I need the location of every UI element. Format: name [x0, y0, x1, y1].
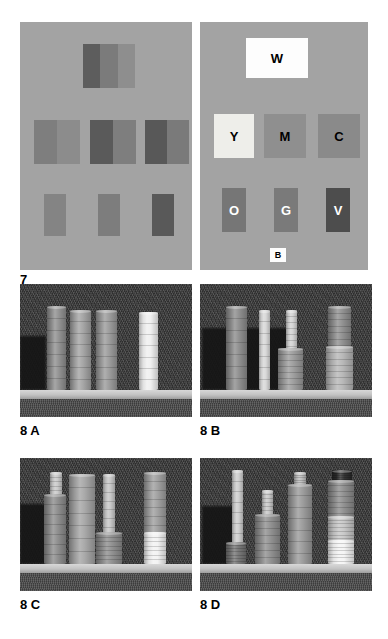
cylinder-ring: [139, 379, 158, 380]
cylinder-ring: [144, 516, 166, 517]
cylinder-ring: [332, 473, 352, 474]
cylinder-ring: [326, 365, 353, 366]
cylinder-ring: [47, 342, 66, 343]
cast-shadow: [20, 336, 46, 390]
cylinder-ring: [70, 379, 91, 380]
cylinder-d1: [232, 470, 243, 544]
cylinder-top: [262, 490, 273, 493]
cylinder-ring: [144, 541, 166, 542]
cylinder-c7: [144, 532, 166, 564]
cylinder-ring: [328, 535, 354, 536]
cylinder-ring: [328, 550, 354, 551]
cylinder-scene-a: 8 A: [20, 284, 192, 441]
cylinder-ring: [70, 344, 91, 345]
cylinder-ring: [328, 496, 354, 497]
cylinder-ring: [328, 527, 354, 528]
cylinder-b3: [286, 310, 297, 352]
cylinder-ring: [47, 354, 66, 355]
cylinder-ring: [328, 523, 354, 524]
cylinder-ring: [226, 555, 246, 556]
patch-half: [90, 120, 113, 164]
cylinder-ring: [96, 367, 117, 368]
cylinder-ring: [69, 500, 95, 501]
figure-plate: WYMCOGVB 7 8 A8 B8 C8 D: [0, 0, 388, 639]
cylinder-ring: [103, 518, 115, 519]
cylinder-ring: [69, 513, 95, 514]
colour-patch-w: W: [246, 38, 308, 78]
figure-7-left-panel: [20, 22, 192, 270]
cylinder-ring: [328, 557, 354, 558]
cylinder-ring: [286, 322, 297, 323]
cylinder-top: [259, 310, 270, 313]
cylinder-ring: [286, 334, 297, 335]
cylinder-top: [326, 346, 353, 349]
cylinder-ring: [139, 334, 158, 335]
textured-floor: [200, 573, 372, 591]
cylinder-ring: [103, 492, 115, 493]
cylinder-top: [50, 472, 62, 475]
figure-7: WYMCOGVB: [20, 22, 368, 270]
achromatic-patch-top-center: [83, 44, 135, 88]
cylinder-ring: [139, 323, 158, 324]
patch-half: [83, 44, 100, 88]
patch-half: [118, 44, 135, 88]
cylinder-ring: [288, 518, 312, 519]
cylinder-c3: [69, 474, 95, 564]
cylinder-scene-b-image: [200, 284, 372, 417]
cylinder-ring: [278, 384, 303, 385]
cylinder-ring: [144, 481, 166, 482]
achromatic-patch-low-left: [44, 194, 66, 236]
cylinder-ring: [96, 333, 117, 334]
cylinder-ring: [69, 487, 95, 488]
cylinder-ring: [294, 477, 306, 478]
cylinder-c2: [44, 494, 66, 564]
cylinder-ring: [288, 507, 312, 508]
shelf-surface: [20, 564, 192, 573]
cylinder-ring: [259, 321, 270, 322]
cylinder-ring: [44, 534, 66, 535]
textured-floor: [200, 399, 372, 417]
cylinder-ring: [96, 550, 122, 551]
colour-patch-v: V: [326, 188, 350, 232]
patch-half: [44, 194, 66, 236]
cylinder-ring: [47, 366, 66, 367]
cylinder-ring: [226, 548, 246, 549]
cylinder-ring: [69, 525, 95, 526]
cylinder-ring: [70, 333, 91, 334]
textured-floor: [20, 399, 192, 417]
cylinder-ring: [226, 366, 247, 367]
cylinder-ring: [255, 521, 280, 522]
cylinder-top: [144, 532, 166, 535]
cylinder-b2: [259, 310, 270, 390]
cylinder-ring: [278, 360, 303, 361]
cylinder-ring: [288, 553, 312, 554]
cylinder-ring: [288, 530, 312, 531]
cylinder-ring: [96, 344, 117, 345]
cylinder-ring: [144, 525, 166, 526]
achromatic-patch-mid-right: [145, 120, 189, 164]
cylinder-ring: [70, 356, 91, 357]
cylinder-ring: [232, 481, 243, 482]
cylinder-top: [332, 470, 352, 473]
cylinder-ring: [255, 557, 280, 558]
cylinder-ring: [286, 316, 297, 317]
cylinder-ring: [278, 372, 303, 373]
cylinder-ring: [328, 339, 351, 340]
cylinder-ring: [259, 379, 270, 380]
cylinder-scene-d: 8 D: [200, 458, 372, 615]
cylinder-scene-a-image: [20, 284, 192, 417]
cylinder-ring: [103, 527, 115, 528]
cylinder-top: [96, 532, 122, 535]
cylinder-ring: [50, 481, 62, 482]
shelf-surface: [200, 564, 372, 573]
cylinder-ring: [44, 554, 66, 555]
cylinder-ring: [328, 520, 354, 521]
cylinder-ring: [328, 554, 354, 555]
cylinder-d2: [226, 542, 246, 564]
cylinder-ring: [47, 330, 66, 331]
cylinder-scene-b-label: 8 B: [200, 423, 220, 438]
cylinder-ring: [328, 313, 351, 314]
cylinder-ring: [328, 319, 351, 320]
cylinder-ring: [232, 491, 243, 492]
cylinder-ring: [288, 541, 312, 542]
